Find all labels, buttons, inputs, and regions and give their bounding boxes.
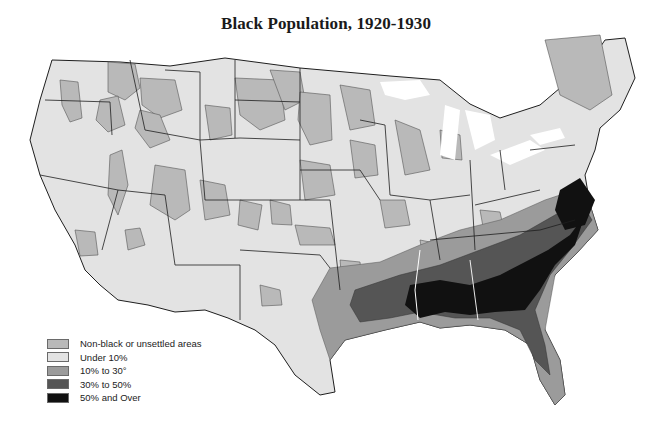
swatch-non-black (47, 339, 69, 349)
legend-label: 50% and Over (80, 392, 141, 403)
legend: Non-black or unsettled areas Under 10% 1… (47, 337, 201, 405)
swatch-50-plus (47, 393, 69, 403)
legend-label: Under 10% (80, 352, 128, 363)
swatch-10-30 (47, 366, 69, 376)
legend-item-under-10: Under 10% (47, 351, 201, 365)
legend-item-30-50: 30% to 50% (47, 378, 201, 392)
swatch-30-50 (47, 379, 69, 389)
legend-item-10-30: 10% to 30° (47, 364, 201, 378)
swatch-under-10 (47, 352, 69, 362)
legend-label: Non-black or unsettled areas (80, 338, 201, 349)
legend-item-non-black: Non-black or unsettled areas (47, 337, 201, 351)
legend-item-50-plus: 50% and Over (47, 391, 201, 405)
legend-label: 30% to 50% (80, 379, 131, 390)
legend-label: 10% to 30° (80, 365, 127, 376)
